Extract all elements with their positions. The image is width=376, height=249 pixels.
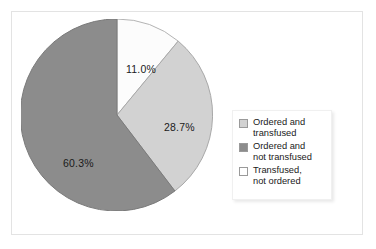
legend-label-transfused-not-ordered: Transfused, not ordered: [253, 165, 302, 186]
legend-swatch-transfused-not-ordered: [239, 167, 248, 176]
pie-slice-label-ordered-and-not-transfused: 60.3%: [63, 157, 94, 169]
chart-legend: Ordered and transfused Ordered and not t…: [232, 110, 332, 200]
pie-chart: 11.0% 28.7% 60.3%: [21, 19, 213, 211]
legend-item-ordered-and-not-transfused[interactable]: Ordered and not transfused: [239, 141, 326, 162]
pie-slice-label-ordered-and-transfused: 28.7%: [164, 121, 195, 133]
chart-canvas: 11.0% 28.7% 60.3% Ordered and transfused…: [0, 0, 376, 249]
pie-slice-label-transfused-not-ordered: 11.0%: [126, 63, 156, 75]
legend-label-ordered-and-not-transfused: Ordered and not transfused: [253, 141, 312, 162]
pie-svg: [21, 19, 213, 211]
legend-swatch-ordered-and-not-transfused: [239, 143, 248, 152]
legend-label-ordered-and-transfused: Ordered and transfused: [253, 117, 305, 138]
legend-item-ordered-and-transfused[interactable]: Ordered and transfused: [239, 117, 326, 138]
legend-item-transfused-not-ordered[interactable]: Transfused, not ordered: [239, 165, 326, 186]
legend-swatch-ordered-and-transfused: [239, 119, 248, 128]
